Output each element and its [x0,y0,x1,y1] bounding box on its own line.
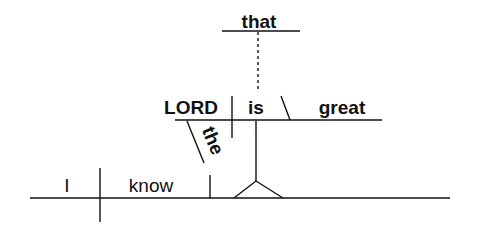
sentence-diagram: that LORD is great the I know [0,0,477,234]
word-lord: LORD [164,97,218,118]
word-the: the [198,123,228,157]
complement-slash [281,96,290,120]
word-i: I [64,175,69,196]
pedestal [234,181,283,198]
word-great: great [319,97,366,118]
word-is: is [248,97,264,118]
word-know: know [129,175,174,196]
word-that: that [242,11,278,32]
modifier-slant-line [187,121,204,163]
